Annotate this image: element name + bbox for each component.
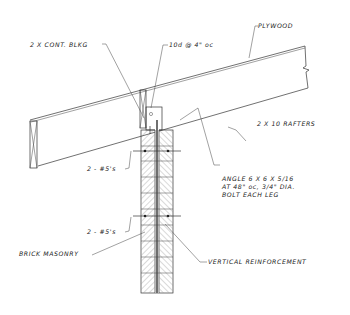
- label-rebar-lower: 2 - #5's: [87, 228, 116, 235]
- label-vertical-reinforcement: VERTICAL REINFORCEMENT: [208, 258, 307, 265]
- label-angle-line2: AT 48" oc, 3/4" DIA.: [221, 183, 295, 190]
- leader-lines: [92, 26, 258, 262]
- brick-masonry-wall: [133, 120, 181, 293]
- section-detail-drawing: PLYWOOD 2 X CONT. BLKG 10d @ 4" oc 2 X 1…: [0, 0, 350, 315]
- continuous-blocking: [140, 90, 146, 128]
- rafter-end-block: [30, 121, 37, 168]
- label-brick-masonry: BRICK MASONRY: [19, 250, 79, 257]
- label-rafters: 2 X 10 RAFTERS: [257, 120, 315, 127]
- label-plywood: PLYWOOD: [258, 22, 293, 29]
- label-angle-line1: ANGLE 6 X 6 X 5/16: [221, 175, 294, 182]
- label-nailing: 10d @ 4" oc: [169, 41, 213, 49]
- label-rebar-upper: 2 - #5's: [87, 165, 116, 172]
- label-continuous-blocking: 2 X CONT. BLKG: [30, 41, 88, 48]
- label-angle-line3: BOLT EACH LEG: [222, 191, 279, 198]
- break-line-symbol: [303, 46, 309, 88]
